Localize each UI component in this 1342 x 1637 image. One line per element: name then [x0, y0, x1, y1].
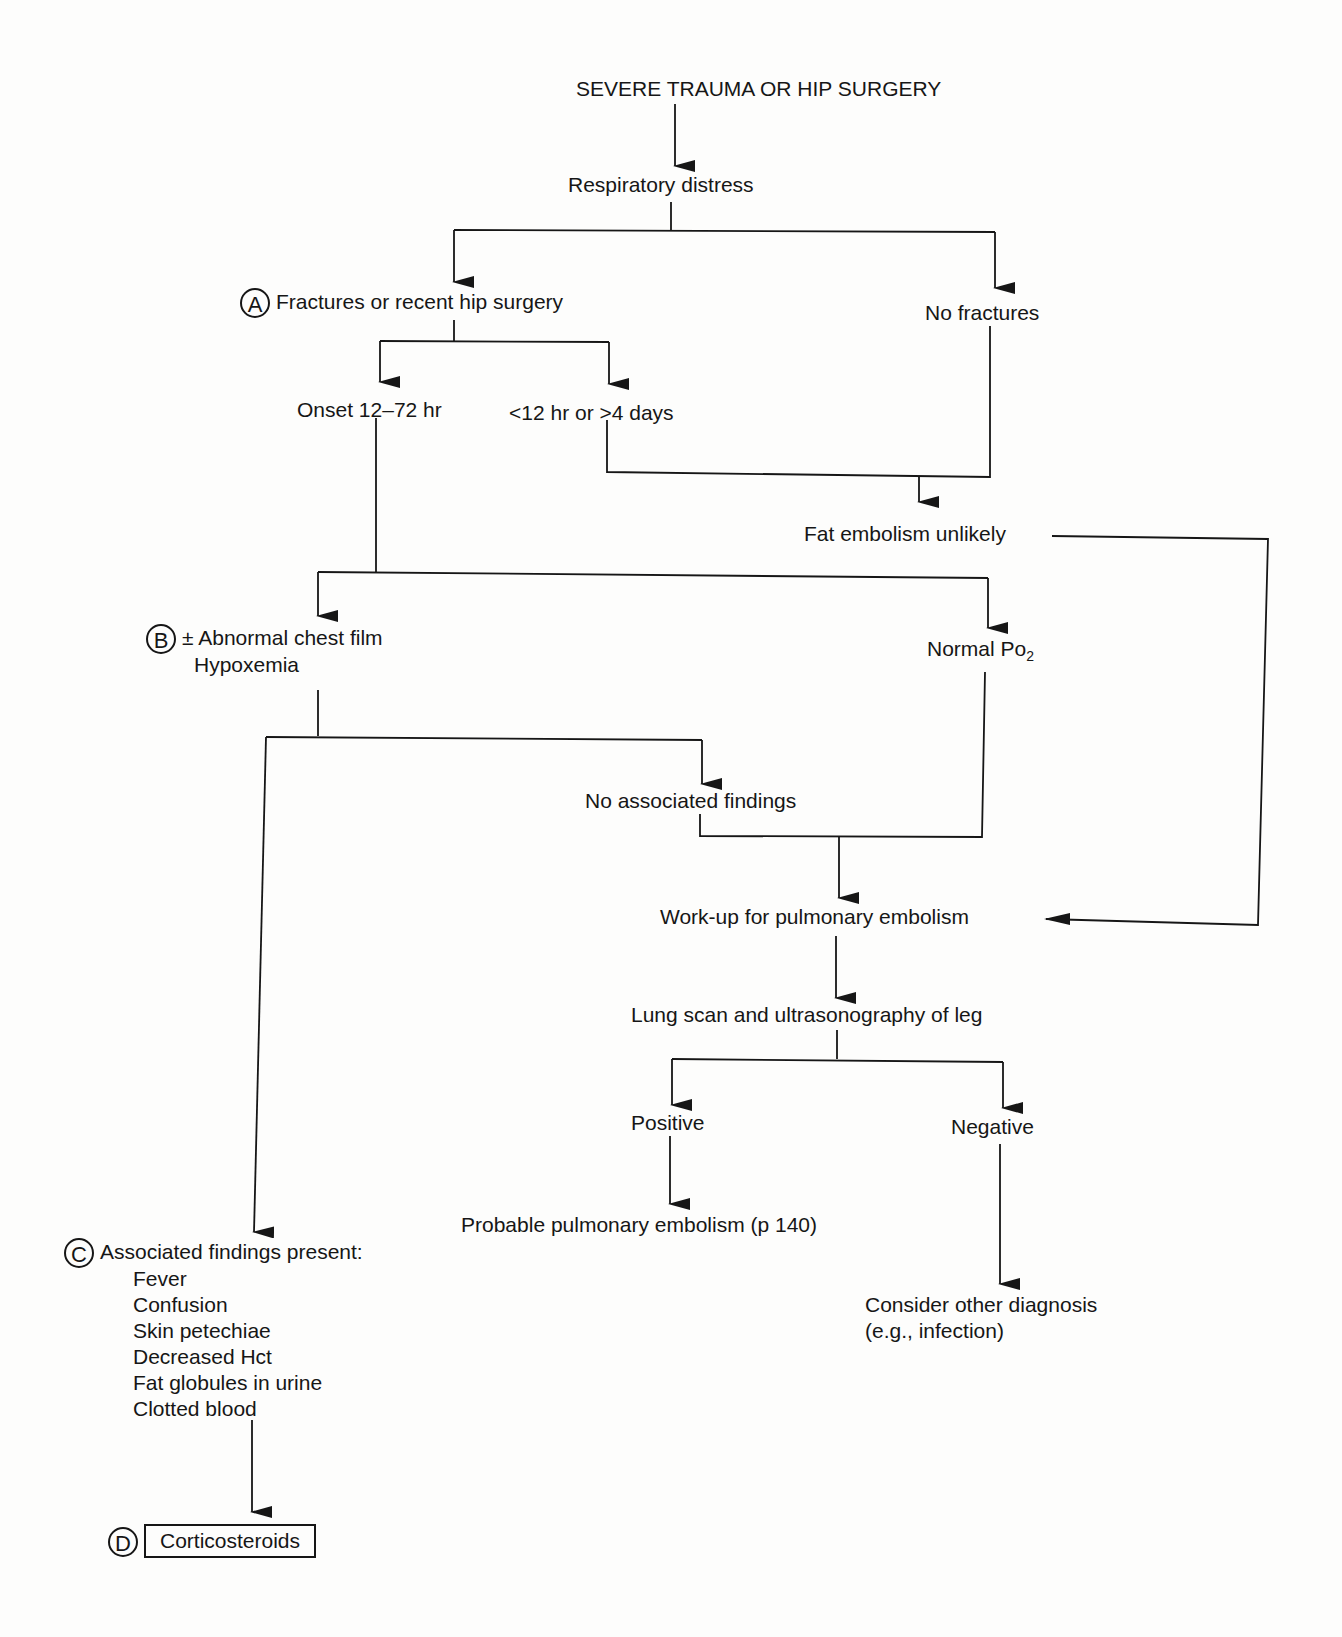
node-normal-po2: Normal Po2	[927, 636, 1034, 669]
finding-item: Fever	[133, 1266, 322, 1292]
node-fat-embolism-unlikely: Fat embolism unlikely	[804, 521, 1006, 547]
finding-item: Skin petechiae	[133, 1318, 322, 1344]
node-corticosteroids: DCorticosteroids	[108, 1524, 316, 1558]
node-consider-other-example: (e.g., infection)	[865, 1318, 1004, 1344]
node-associated-findings: CAssociated findings present:	[64, 1238, 363, 1268]
node-fractures-label: Fractures or recent hip surgery	[276, 290, 563, 313]
marker-b: B	[146, 624, 176, 654]
node-positive: Positive	[631, 1110, 705, 1136]
node-probable-pe: Probable pulmonary embolism (p 140)	[461, 1212, 817, 1238]
corticosteroids-box: Corticosteroids	[144, 1524, 316, 1558]
node-no-fractures: No fractures	[925, 300, 1039, 326]
marker-d: D	[108, 1527, 138, 1557]
flowchart: SEVERE TRAUMA OR HIP SURGERY Respiratory…	[0, 0, 1342, 1637]
node-negative: Negative	[951, 1114, 1034, 1140]
node-fractures: AFractures or recent hip surgery	[240, 288, 563, 318]
node-lung-scan: Lung scan and ultrasonography of leg	[631, 1002, 982, 1028]
node-start: SEVERE TRAUMA OR HIP SURGERY	[576, 76, 941, 102]
node-hypoxemia: Hypoxemia	[194, 652, 299, 678]
node-associated-findings-label: Associated findings present:	[100, 1240, 363, 1263]
node-early-late: <12 hr or >4 days	[509, 400, 674, 426]
marker-c: C	[64, 1238, 94, 1268]
node-consider-other: Consider other diagnosis	[865, 1292, 1097, 1318]
finding-item: Confusion	[133, 1292, 322, 1318]
node-respiratory-distress: Respiratory distress	[568, 172, 754, 198]
findings-list: Fever Confusion Skin petechiae Decreased…	[133, 1266, 322, 1422]
finding-item: Fat globules in urine	[133, 1370, 322, 1396]
node-chest-film: B± Abnormal chest film	[146, 624, 383, 654]
normal-po2-subscript: 2	[1026, 648, 1034, 664]
node-workup-pe: Work-up for pulmonary embolism	[660, 904, 969, 930]
marker-a: A	[240, 288, 270, 318]
normal-po2-label: Normal Po	[927, 637, 1026, 660]
finding-item: Clotted blood	[133, 1396, 322, 1422]
node-chest-film-label: ± Abnormal chest film	[182, 626, 383, 649]
finding-item: Decreased Hct	[133, 1344, 322, 1370]
node-no-associated-findings: No associated findings	[585, 788, 796, 814]
node-onset: Onset 12–72 hr	[297, 397, 442, 423]
